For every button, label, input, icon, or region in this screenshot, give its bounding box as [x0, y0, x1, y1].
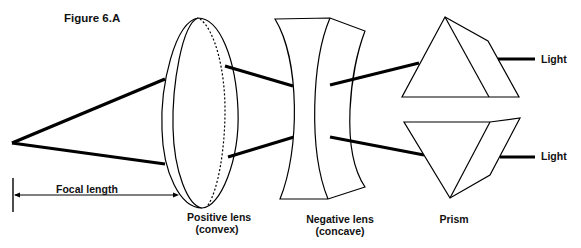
positive-lens-shape — [162, 18, 238, 208]
ray-upper-focal — [12, 79, 165, 143]
ray-lower-focal — [12, 143, 165, 164]
focal-length-label: Focal length — [56, 183, 118, 195]
negative-lens-label-line2: (concave) — [306, 225, 374, 237]
figure-title: Figure 6.A — [64, 12, 120, 24]
light-label-top: Light — [541, 53, 567, 65]
prism-label: Prism — [439, 213, 468, 225]
positive-lens-label: Positive lens (convex) — [187, 211, 247, 235]
positive-lens-label-line2: (convex) — [187, 223, 247, 235]
negative-lens-label-line1: Negative lens — [306, 213, 374, 225]
upper-prism-shape — [402, 17, 519, 97]
optics-diagram — [0, 0, 581, 248]
negative-lens-shape — [275, 18, 365, 199]
light-label-bottom: Light — [541, 150, 567, 162]
positive-lens-label-line1: Positive lens — [187, 211, 247, 223]
negative-lens-label: Negative lens (concave) — [306, 213, 374, 237]
incoming-rays — [12, 79, 165, 164]
